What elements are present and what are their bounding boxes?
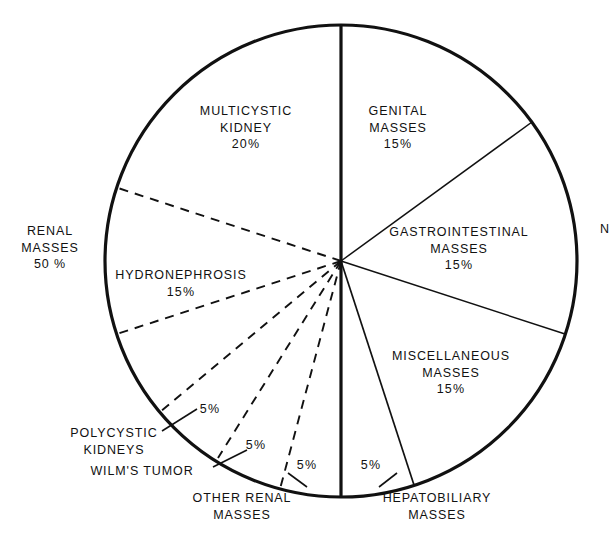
slice-percent-multicystic-kidney: 20%	[200, 136, 292, 153]
slice-name-line2-genital-masses: MASSES	[369, 121, 427, 135]
slice-name-line1-wilms-tumor: WILM'S TUMOR	[90, 464, 193, 478]
slice-label-polycystic-kidneys: POLYCYSTIC KIDNEYS	[70, 425, 157, 458]
group-label-renal-masses-line2: MASSES	[21, 241, 79, 255]
slice-name-line1-hydronephrosis: HYDRONEPHROSIS	[115, 268, 246, 282]
leader-line-other-renal-masses	[288, 473, 307, 487]
slice-name-line2-miscellaneous-masses: MASSES	[422, 366, 480, 380]
slice-percent-genital-masses: 15%	[369, 136, 428, 153]
group-label-renal-masses-line3: 50 %	[34, 257, 66, 271]
leader-line-hepatobiliary-masses	[379, 473, 397, 487]
slice-name-line2-multicystic-kidney: KIDNEY	[220, 121, 272, 135]
slice-percent-miscellaneous-masses: 15%	[392, 381, 510, 398]
slice-percent-gastrointestinal-masses: 15%	[389, 257, 528, 274]
slice-label-gastrointestinal-masses: GASTROINTESTINAL MASSES 15%	[389, 224, 528, 274]
slice-name-line1-genital-masses: GENITAL	[369, 104, 428, 118]
group-label-nonrenal-masses-clipped: N	[600, 222, 610, 236]
slice-name-line1-gastrointestinal-masses: GASTROINTESTINAL	[389, 225, 528, 239]
slice-label-multicystic-kidney: MULTICYSTIC KIDNEY 20%	[200, 103, 292, 153]
slice-percent-wilms-tumor: 5%	[246, 438, 266, 452]
slice-label-miscellaneous-masses: MISCELLANEOUS MASSES 15%	[392, 348, 510, 398]
slice-label-hydronephrosis: HYDRONEPHROSIS 15%	[115, 267, 246, 300]
slice-name-line2-gastrointestinal-masses: MASSES	[430, 242, 488, 256]
pie-chart-figure: MULTICYSTIC KIDNEY 20% HYDRONEPHROSIS 15…	[0, 0, 610, 551]
slice-name-line2-other-renal-masses: MASSES	[213, 507, 271, 521]
slice-name-line1-hepatobiliary-masses: HEPATOBILIARY	[383, 491, 492, 505]
slice-name-line1-other-renal-masses: OTHER RENAL	[193, 491, 292, 505]
slice-name-line1-miscellaneous-masses: MISCELLANEOUS	[392, 349, 510, 363]
slice-name-line2-polycystic-kidneys: KIDNEYS	[83, 442, 144, 456]
slice-percent-hepatobiliary-masses: 5%	[361, 458, 381, 472]
group-label-renal-masses: RENAL MASSES 50 %	[21, 223, 79, 273]
leader-line-wilms-tumor	[213, 450, 247, 467]
group-label-renal-masses-line1: RENAL	[27, 224, 73, 238]
slice-name-line1-polycystic-kidneys: POLYCYSTIC	[70, 426, 157, 440]
slice-label-other-renal-masses: OTHER RENAL MASSES	[193, 490, 292, 523]
slice-percent-other-renal-masses: 5%	[297, 458, 317, 472]
slice-percent-polycystic-kidneys: 5%	[200, 402, 220, 416]
slice-percent-hydronephrosis: 15%	[115, 283, 246, 300]
divider-other-renal-boundary	[280, 261, 341, 489]
slice-label-hepatobiliary-masses: HEPATOBILIARY MASSES	[383, 490, 492, 523]
divider-multicystic-hydronephrosis	[118, 188, 341, 261]
slice-name-line2-hepatobiliary-masses: MASSES	[408, 507, 466, 521]
slice-label-wilms-tumor: WILM'S TUMOR	[90, 463, 193, 480]
slice-label-genital-masses: GENITAL MASSES 15%	[369, 103, 428, 153]
slice-name-line1-multicystic-kidney: MULTICYSTIC	[200, 104, 292, 118]
